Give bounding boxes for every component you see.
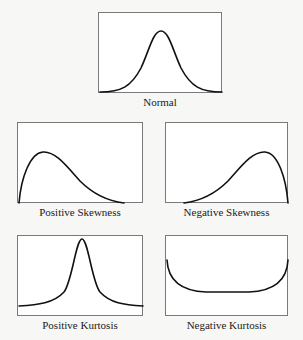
- positive-kurtosis-curve: [18, 236, 144, 317]
- label-positive-skewness: Positive Skewness: [17, 206, 143, 218]
- panel-positive-skewness: [17, 122, 143, 203]
- panel-negative-skewness: [165, 122, 288, 203]
- positive-skewness-curve: [18, 123, 144, 204]
- label-positive-kurtosis: Positive Kurtosis: [17, 319, 143, 331]
- label-normal: Normal: [98, 96, 222, 108]
- label-negative-skewness: Negative Skewness: [165, 206, 288, 218]
- negative-skewness-curve: [166, 123, 289, 204]
- panel-normal: [98, 12, 222, 93]
- panel-positive-kurtosis: [17, 235, 143, 316]
- negative-kurtosis-curve: [166, 236, 289, 317]
- panel-negative-kurtosis: [165, 235, 288, 316]
- label-negative-kurtosis: Negative Kurtosis: [165, 319, 288, 331]
- normal-curve: [99, 13, 223, 94]
